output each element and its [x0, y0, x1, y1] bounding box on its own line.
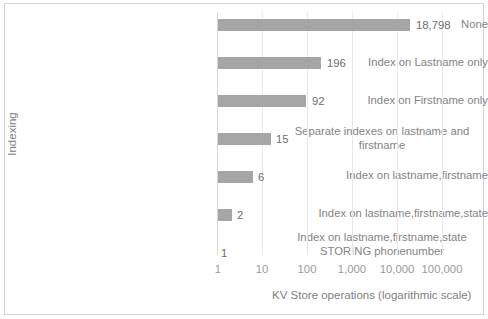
- x-tick-100: 100: [298, 263, 317, 275]
- x-tick-1: 1: [215, 263, 221, 275]
- bar-separate-indexes: [218, 133, 271, 145]
- bar-value-index-lastname-firstname: 6: [258, 171, 264, 183]
- bar-index-firstname: [218, 95, 306, 107]
- bar-value-none: 18,798: [416, 19, 451, 31]
- bar-index-lastname-firstname: [218, 171, 253, 183]
- x-tick-10000: 10,000: [380, 263, 415, 275]
- gridline-100: [307, 12, 308, 255]
- bar-chart: Indexing None Index on Lastname only Ind…: [0, 0, 488, 319]
- y-axis-title: Indexing: [6, 99, 18, 169]
- gridline-1000: [352, 12, 353, 255]
- bar-value-index-lastname-firstname-state: 2: [237, 209, 243, 221]
- gridline-10000: [397, 12, 398, 255]
- gridline-100000: [442, 12, 443, 255]
- bar-index-lastname: [218, 57, 321, 69]
- x-axis-title: KV Store operations (logarithmic scale): [272, 289, 471, 301]
- bar-none: [218, 19, 410, 31]
- x-tick-100000: 100,000: [422, 263, 463, 275]
- bar-value-index-storing-phonenumber: 1: [221, 247, 227, 259]
- x-tick-1000: 1,000: [338, 263, 366, 275]
- bar-value-index-firstname: 92: [312, 95, 325, 107]
- bar-index-lastname-firstname-state: [218, 209, 232, 221]
- bar-value-separate-indexes: 15: [276, 133, 289, 145]
- plot-area: 18,798 196 92 15 6 2 1 1 10 100 1,000 10…: [217, 12, 469, 255]
- bar-value-index-lastname: 196: [327, 57, 346, 69]
- x-tick-10: 10: [256, 263, 269, 275]
